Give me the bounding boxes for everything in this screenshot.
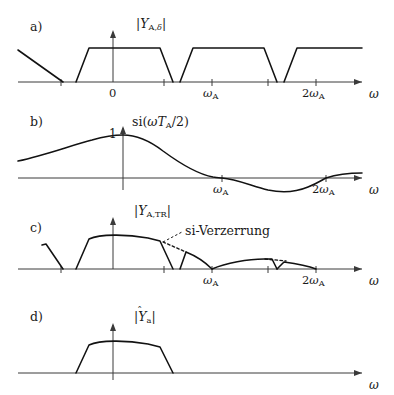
panel-b-si-envelope — [18, 135, 362, 192]
panel-c-annotation-leader — [163, 232, 182, 242]
panel-letter-c: c) — [30, 222, 42, 235]
panel-b-y-axis-label: si(ωTA/2) — [132, 116, 189, 129]
panel-c-tick-label-2wa: 2ωA — [302, 275, 325, 287]
panel-letter-b: b) — [30, 116, 43, 129]
panel-a-axis-label-omega: ω — [369, 88, 379, 100]
panel-b-peak-label-one: 1 — [109, 128, 117, 140]
panel-c-second-image-lobe — [212, 259, 277, 269]
panel-b-plot — [18, 126, 362, 192]
panel-a-tick-label-2wa: 2ωA — [302, 88, 325, 100]
panel-a-second-image-lobe — [284, 48, 362, 82]
panel-a-x-arrowhead — [354, 79, 362, 85]
panel-a-left-partial-lobe — [18, 50, 63, 82]
panel-c-y-arrowhead — [110, 217, 116, 225]
panel-c-x-arrowhead — [354, 266, 362, 272]
panel-letter-d: d) — [30, 311, 43, 324]
panel-c-tick-label-wa: ωA — [203, 275, 218, 287]
panel-c-left-partial-lobe — [42, 244, 63, 269]
panel-c-lobe-tip-dashed — [265, 259, 286, 261]
panel-d-y-axis-label: |̂Ya| — [134, 311, 156, 324]
panel-c-y-axis-label: |YA,TR| — [134, 205, 171, 218]
panel-c-first-image-lobe — [180, 252, 212, 269]
panel-d-y-arrowhead — [110, 323, 116, 331]
panel-d-plot — [18, 323, 362, 380]
panel-c-si-distortion-annotation: si-Verzerrung — [185, 225, 270, 238]
figure-canvas — [0, 0, 394, 395]
panel-c-third-image-lobe — [277, 262, 316, 269]
panel-d-axis-label-omega: ω — [369, 379, 379, 391]
panel-d-baseband-lobe — [76, 341, 173, 373]
panel-b-x-arrowhead — [354, 175, 362, 181]
panel-a-y-arrowhead — [110, 30, 116, 38]
panel-c-si-distortion-leader — [163, 242, 186, 252]
panel-b-axis-label-omega: ω — [369, 184, 379, 196]
panel-a-tick-label-wa: ωA — [203, 88, 218, 100]
panel-letter-a: a) — [30, 21, 42, 34]
panel-d-x-arrowhead — [354, 370, 362, 376]
figure-root: a) b) c) d) |YA,δ| 0 ωA 2ωA ω 1 si(ωTA/2… — [0, 0, 394, 395]
panel-b-tick-label-2wa: 2ωA — [312, 184, 335, 196]
panel-a-first-image-lobe — [180, 48, 277, 82]
panel-a-y-axis-label: |YA,δ| — [136, 18, 166, 31]
panel-a-baseband-lobe — [76, 48, 173, 82]
panel-a-plot — [18, 30, 362, 86]
panel-b-y-arrowhead — [120, 126, 126, 134]
panel-c-baseband-lobe — [76, 235, 173, 269]
panel-c-axis-label-omega: ω — [369, 275, 379, 287]
panel-a-tick-label-0: 0 — [109, 88, 116, 100]
panel-b-tick-label-wa: ωA — [213, 184, 228, 196]
